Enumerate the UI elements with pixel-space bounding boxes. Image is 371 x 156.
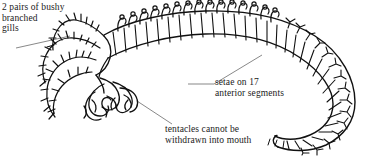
label-gills: 2 pairs of bushy branched gills [2,2,65,34]
seta-tuft [118,15,126,31]
tail-segment-bristles [268,139,284,148]
seta-tuft [162,4,170,19]
seta-tuft [140,9,148,24]
leader-line-tentacles [137,101,172,124]
gill-plume-mid-barbs [38,31,96,86]
seta-tuft [173,2,181,17]
label-tentacles: tentacles cannot be withdrawn into mouth [165,124,251,145]
seta-tuft [151,6,159,21]
seta-tuft [129,12,137,27]
gill-plume-lower [47,57,96,117]
tentacle-coils [84,78,138,120]
label-setae: setae on 17 anterior segments [215,77,284,98]
leader-line-gills [16,36,70,48]
setae-anterior-segments [118,0,279,31]
gill-plume-basal [53,72,92,114]
